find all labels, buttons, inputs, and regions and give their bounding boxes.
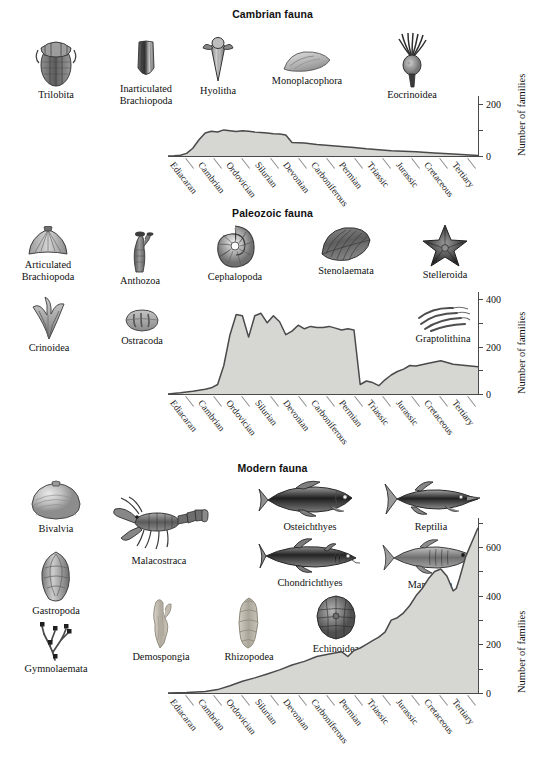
y-axis-label: Number of families [516,611,527,693]
bony-fish-icon [258,478,362,520]
eocrinoid-icon [393,32,431,88]
x-axis [168,693,480,694]
paleozoic-area-plot [168,290,498,398]
taxon-label: Crinoidea [8,342,90,354]
y-tick-label: 400 [486,294,501,305]
taxon-bivalvia: Bivalvia [14,480,98,535]
period-label: Ediacaran [168,398,199,434]
ichthyosaur-icon [381,478,481,520]
chart-cambrian: 0200Number of familiesEdiacaranCambrianO… [168,92,498,162]
chart-modern: 0200400600Number of familiesEdiacaranCam… [168,518,498,697]
modern-area-plot [168,518,498,697]
y-tick [479,669,483,670]
monoplacophoran-icon [280,48,334,74]
x-axis [168,394,480,395]
articulate-brachiopod-icon [26,226,70,258]
period-label: Ediacaran [168,160,199,196]
y-tick [479,370,483,371]
taxon-label: Gastropoda [14,605,98,617]
y-tick-label: 0 [486,151,491,162]
period-label: Ediacaran [168,697,199,733]
y-tick-label: 0 [486,389,491,400]
y-tick-label: 600 [486,542,501,553]
y-tick [479,547,483,548]
taxon-monoplacophora: Monoplacophora [252,48,362,87]
hyolith-icon [201,34,235,84]
period-label: Devonian [281,398,311,433]
taxon-cephalopoda: Cephalopoda [188,224,282,283]
bryozoan-icon [318,224,374,264]
snail-icon [36,550,76,604]
coral-icon [125,230,155,274]
panel-paleozoic-fauna: Paleozoic fauna Articulated Brachiopoda [0,200,545,458]
y-tick-label: 200 [486,639,501,650]
taxon-crinoidea: Crinoidea [8,295,90,354]
y-tick [479,571,483,572]
period-label: Cambrian [196,160,227,195]
bryozoan-branching-icon [33,618,79,662]
figure-caption-cropped [0,755,545,769]
taxon-label: Articulated Brachiopoda [6,259,90,282]
taxon-articulated-brachiopoda: Articulated Brachiopoda [6,226,90,282]
taxon-trilobita: Trilobita [10,32,102,101]
y-tick-label: 200 [486,98,501,109]
taxon-label: Cephalopoda [188,271,282,283]
taxon-gymnolaemata: Gymnolaemata [6,618,106,675]
starfish-icon [422,224,468,268]
taxon-label: Stelleroida [400,269,490,281]
taxon-label: Bivalvia [14,523,98,535]
panel-title-modern: Modern fauna [0,462,545,474]
y-axis-label: Number of families [516,74,527,156]
period-label: Devonian [281,697,311,732]
trilobite-icon [32,32,80,88]
y-axis [478,96,479,157]
ostracod-icon [123,308,161,334]
clam-icon [29,480,83,522]
crinoid-icon [26,295,72,341]
taxon-gastropoda: Gastropoda [14,550,98,617]
taxon-hyolitha: Hyolitha [180,34,256,97]
y-tick-label: 400 [486,590,501,601]
y-tick [479,693,483,694]
y-tick [479,156,483,157]
taxon-eocrinoidea: Eocrinoidea [368,32,456,101]
y-tick [479,130,483,131]
inarticulate-brachiopod-icon [133,40,159,82]
taxon-stelleroida: Stelleroida [400,224,490,281]
y-axis-label: Number of families [516,312,527,394]
taxon-label: Stenolaemata [300,265,392,277]
nautiloid-icon [213,224,257,270]
x-axis [168,156,480,157]
y-tick [479,104,483,105]
y-tick-label: 0 [486,688,491,699]
taxon-label: Anthozoa [104,275,176,287]
panel-title-paleozoic: Paleozoic fauna [0,207,545,219]
y-tick [479,347,483,348]
y-tick [479,394,483,395]
panel-title-cambrian: Cambrian fauna [0,8,545,20]
y-tick [479,299,483,300]
taxon-label: Monoplacophora [252,75,362,87]
y-axis [478,292,479,395]
taxon-label: Trilobita [10,89,102,101]
y-tick [479,620,483,621]
taxon-label: Gymnolaemata [6,663,106,675]
y-tick [479,644,483,645]
period-label: Cambrian [196,697,227,732]
panel-modern-fauna: Modern fauna Bivalvia Gastropoda [0,458,545,769]
period-label: Cambrian [196,398,227,433]
y-tick-label: 200 [486,341,501,352]
y-tick [479,596,483,597]
y-tick [479,323,483,324]
taxon-anthozoa: Anthozoa [104,230,176,287]
period-label: Devonian [281,160,311,195]
chart-paleozoic: 0200400Number of familiesEdiacaranCambri… [168,290,498,398]
y-axis [478,518,479,694]
panel-cambrian-fauna: Cambrian fauna Trilobita [0,0,545,200]
cambrian-area-plot [168,92,498,162]
y-tick [479,523,483,524]
taxon-stenolaemata: Stenolaemata [300,224,392,277]
